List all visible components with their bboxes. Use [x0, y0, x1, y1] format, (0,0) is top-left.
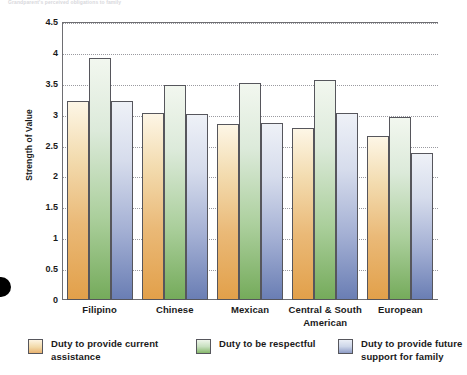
y-tick-label: 0.5: [18, 264, 58, 274]
bar[interactable]: [67, 101, 89, 300]
figure-caption: Grandparent's perceived obligations to f…: [8, 0, 121, 6]
x-tick-label: Filipino: [60, 304, 140, 317]
legend-label: Duty to be respectful: [219, 338, 316, 351]
bar[interactable]: [89, 58, 111, 300]
bar-group: [367, 22, 433, 300]
chart-legend: Duty to provide current assistanceDuty t…: [28, 338, 448, 372]
bar[interactable]: [389, 117, 411, 300]
y-tick-label: 1.5: [18, 202, 58, 212]
legend-swatch-icon: [196, 339, 211, 354]
bar-group: [292, 22, 358, 300]
bar-group: [217, 22, 283, 300]
y-tick-label: 1: [18, 233, 58, 243]
bar[interactable]: [336, 113, 358, 300]
legend-item[interactable]: Duty to provide future support for famil…: [338, 338, 467, 363]
bar[interactable]: [142, 113, 164, 300]
legend-item[interactable]: Duty to be respectful: [196, 338, 346, 354]
bars-layer: [62, 22, 438, 300]
y-tick-label: 2: [18, 171, 58, 181]
margin-bullet-icon: [0, 277, 11, 297]
bar[interactable]: [164, 85, 186, 300]
legend-item[interactable]: Duty to provide current assistance: [28, 338, 163, 363]
bar[interactable]: [111, 101, 133, 300]
bar[interactable]: [261, 123, 283, 300]
bar-group: [67, 22, 133, 300]
x-tick-label: Central & South American: [277, 304, 373, 329]
bar[interactable]: [314, 80, 336, 300]
legend-label: Duty to provide current assistance: [51, 338, 163, 363]
y-tick-label: 3: [18, 110, 58, 120]
bar[interactable]: [292, 128, 314, 300]
bar[interactable]: [367, 136, 389, 300]
x-tick-label: European: [360, 304, 440, 317]
x-tick-label: Chinese: [135, 304, 215, 317]
y-tick-label: 4.5: [18, 17, 58, 27]
x-axis-tick-labels: FilipinoChineseMexicanCentral & South Am…: [62, 304, 438, 332]
legend-swatch-icon: [28, 339, 43, 354]
bar[interactable]: [239, 83, 261, 300]
bar-group: [142, 22, 208, 300]
y-tick-label: 2.5: [18, 141, 58, 151]
y-tick-label: 0: [18, 295, 58, 305]
bar[interactable]: [186, 114, 208, 300]
y-tick-label: 3.5: [18, 79, 58, 89]
y-tick-label: 4: [18, 48, 58, 58]
bar[interactable]: [411, 153, 433, 300]
legend-label: Duty to provide future support for famil…: [361, 338, 467, 363]
legend-swatch-icon: [338, 339, 353, 354]
bar[interactable]: [217, 124, 239, 300]
